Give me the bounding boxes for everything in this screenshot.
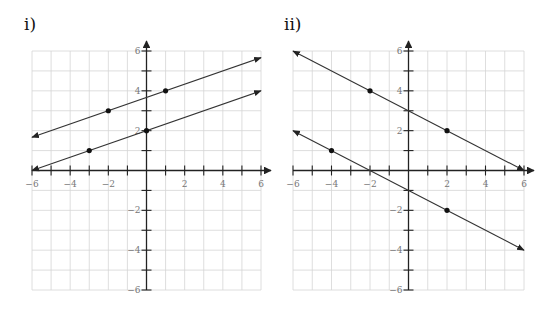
data-point <box>163 88 168 93</box>
data-point <box>444 208 449 213</box>
x-tick-label: 4 <box>483 179 489 189</box>
y-tick-label: −4 <box>127 245 141 255</box>
y-tick-label: 4 <box>397 86 403 96</box>
data-point <box>144 128 149 133</box>
y-tick-label: 6 <box>397 46 403 56</box>
y-tick-label: −6 <box>127 285 141 295</box>
data-point <box>367 88 372 93</box>
x-tick-label: 6 <box>258 179 264 189</box>
graph-ii: −6−4−2246642−2−4−6 <box>286 41 534 295</box>
x-tick-label: −2 <box>102 179 115 189</box>
y-tick-label: 2 <box>397 126 403 136</box>
x-tick-label: −6 <box>286 179 300 189</box>
x-tick-label: −4 <box>64 179 78 189</box>
data-point <box>87 148 92 153</box>
x-tick-label: 6 <box>521 179 527 189</box>
data-point <box>329 148 334 153</box>
data-point <box>106 108 111 113</box>
x-tick-label: −4 <box>325 179 339 189</box>
y-tick-label: −2 <box>127 205 140 215</box>
y-tick-label: −2 <box>389 205 402 215</box>
coordinate-plots: −6−4−2246642−2−4−6 −6−4−2246642−2−4−6 <box>0 0 551 311</box>
x-tick-label: 2 <box>182 179 188 189</box>
graph-i: −6−4−2246642−2−4−6 <box>25 41 271 295</box>
y-tick-label: −4 <box>389 245 403 255</box>
x-tick-label: 2 <box>444 179 450 189</box>
x-tick-label: 4 <box>220 179 226 189</box>
y-tick-label: 6 <box>135 46 141 56</box>
x-tick-label: −2 <box>363 179 376 189</box>
x-tick-label: −6 <box>25 179 39 189</box>
y-tick-label: −6 <box>389 285 403 295</box>
y-tick-label: 4 <box>135 86 141 96</box>
data-point <box>444 128 449 133</box>
